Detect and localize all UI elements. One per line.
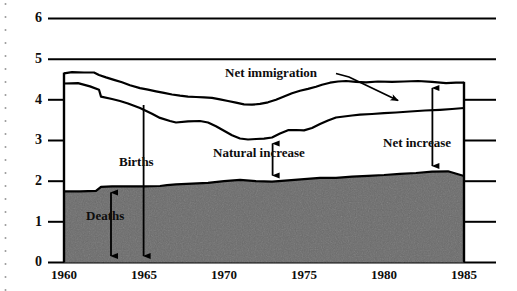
population-components-chart: 6 5 4 3 2 1 0 1960 1965 1970 1975 1980 1…	[0, 0, 517, 291]
upper-gridlines	[48, 19, 496, 60]
net-immigration-leader	[336, 74, 398, 101]
left-axis-ticks	[48, 100, 64, 222]
births-annotation-label: Births	[119, 155, 154, 168]
y-tick-label-3: 3	[26, 133, 42, 147]
x-tick-label-1970: 1970	[201, 268, 247, 281]
natural-increase-annotation-label: Natural increase	[213, 146, 305, 159]
births-curve	[64, 83, 464, 139]
y-tick-label-5: 5	[26, 52, 42, 66]
y-tick-label-2: 2	[26, 174, 42, 188]
y-tick-label-4: 4	[26, 93, 42, 107]
right-axis-ticks	[464, 100, 496, 222]
deaths-annotation-label: Deaths	[86, 209, 124, 222]
x-tick-label-1960: 1960	[41, 268, 87, 281]
y-tick-label-1: 1	[26, 215, 42, 229]
x-tick-label-1980: 1980	[361, 268, 407, 281]
net-immigration-annotation-label: Net immigration	[225, 66, 317, 79]
x-tick-label-1985: 1985	[441, 268, 487, 281]
x-tick-label-1975: 1975	[281, 268, 327, 281]
y-tick-label-0: 0	[26, 255, 42, 269]
net-increase-annotation-label: Net increase	[383, 136, 451, 149]
y-tick-label-6: 6	[26, 11, 42, 25]
x-tick-label-1965: 1965	[121, 268, 167, 281]
